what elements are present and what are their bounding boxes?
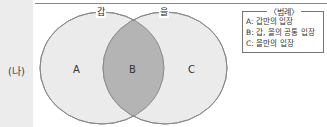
region-a-label: A (73, 64, 80, 75)
region-c-label: C (188, 64, 195, 75)
set-label-gap: 갑 (96, 5, 106, 18)
legend-item-b: B: 갑, 을의 공통 입장 (246, 27, 323, 38)
set-label-eul: 을 (159, 5, 169, 18)
legend-item-c: C: 을만의 입장 (246, 38, 323, 49)
region-b-label: B (129, 64, 136, 75)
legend-item-a: A: 갑만의 입장 (246, 16, 323, 27)
legend-box: 〈범례〉 A: 갑만의 입장 B: 갑, 을의 공통 입장 C: 을만의 입장 (242, 11, 324, 53)
legend-title: 〈범례〉 (243, 6, 325, 17)
